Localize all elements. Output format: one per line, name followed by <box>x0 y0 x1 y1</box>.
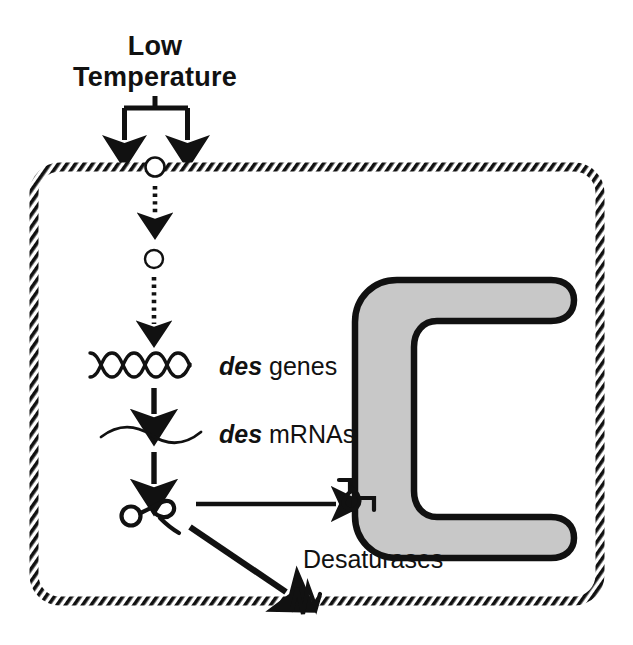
thylakoid-organelle <box>355 280 574 558</box>
des-mrnas-italic: des <box>219 420 262 448</box>
des-genes-italic: des <box>219 352 262 380</box>
diagram-svg: Low Temperature des genes des mRNAs <box>0 0 633 645</box>
stimulus-label-line2: Temperature <box>73 62 237 92</box>
des-mrnas-label: des mRNAs <box>219 420 355 448</box>
signal-transducer-icon <box>145 250 163 268</box>
figure-canvas: Low Temperature des genes des mRNAs <box>0 0 633 645</box>
des-genes-rest: genes <box>262 352 337 380</box>
desaturases-label: Desaturases <box>303 545 443 573</box>
stimulus-fork-arrows <box>124 96 188 140</box>
mrna-transcript-icon <box>101 427 201 443</box>
des-genes-label: des genes <box>219 352 337 380</box>
des-mrnas-rest: mRNAs <box>262 420 355 448</box>
stimulus-label-line1: Low <box>128 31 183 61</box>
dna-double-helix-icon <box>90 353 190 377</box>
desaturase-protein-icon <box>122 501 180 533</box>
membrane-sensor-icon <box>146 158 165 177</box>
targeting-arrow-plasma-membrane <box>190 527 286 592</box>
